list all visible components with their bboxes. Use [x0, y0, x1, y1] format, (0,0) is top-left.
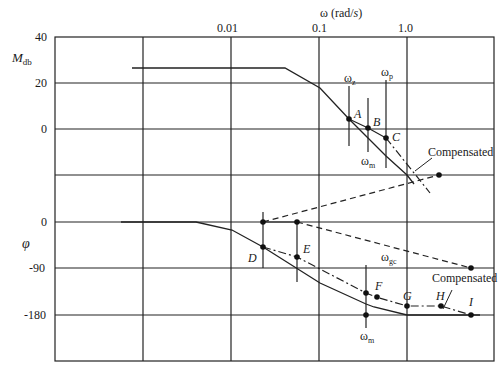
magnitude-axis-label: Mdb [11, 50, 32, 67]
label-H: H [435, 289, 446, 303]
point-H [438, 303, 444, 309]
point-E [294, 254, 300, 260]
label-B: B [373, 115, 381, 129]
point-B [365, 125, 371, 131]
plot-frame [55, 37, 494, 361]
magnitude-compensated-curve-tail [386, 138, 430, 193]
label-omega-gc: ωgc [381, 250, 397, 266]
grid [55, 37, 494, 361]
label-compensated-bottom: Compensated [432, 271, 497, 285]
point-G [404, 303, 410, 309]
mag-point-crossover [436, 172, 442, 178]
point-E-top [294, 219, 300, 225]
label-C: C [392, 130, 401, 144]
compensated-leader-top [415, 158, 432, 171]
point-D [260, 244, 266, 250]
label-D: D [247, 251, 257, 265]
y-tick-20: 20 [35, 76, 47, 90]
point-I [468, 312, 474, 318]
label-compensated-top: Compensated [428, 145, 493, 159]
point-F [374, 294, 380, 300]
label-E: E [302, 242, 311, 256]
y-tick-0: 0 [41, 122, 47, 136]
label-F: F [374, 279, 383, 293]
y-tick-40: 40 [35, 30, 47, 44]
bode-plot: ω (rad/s) 0.01 0.1 1.0 Mdb 40 20 0 φ 0 -… [0, 0, 504, 372]
label-omega-z: ωz [344, 71, 356, 87]
x-tick-1.0: 1.0 [398, 21, 413, 35]
phase-tick-0: 0 [41, 215, 47, 229]
point-omega-m-bottom [363, 312, 369, 318]
label-G: G [403, 289, 412, 303]
point-A [346, 116, 352, 122]
label-omega-m-bottom: ωm [360, 329, 375, 345]
x-axis-title: ω (rad/s) [320, 6, 362, 20]
x-tick-0.1: 0.1 [312, 21, 327, 35]
label-I: I [468, 295, 474, 309]
label-A: A [353, 107, 362, 121]
dashed-link-top [263, 175, 439, 222]
x-tick-0.01: 0.01 [217, 21, 238, 35]
point-F1 [363, 290, 369, 296]
label-omega-p: ωp [381, 65, 393, 81]
phase-tick-m180: -180 [24, 308, 46, 322]
point-omega-gc [468, 265, 474, 271]
point-D-top [260, 219, 266, 225]
phase-tick-m90: -90 [29, 261, 45, 275]
label-omega-m-top: ωm [361, 154, 376, 170]
point-C [383, 135, 389, 141]
phase-axis-label: φ [22, 236, 30, 251]
